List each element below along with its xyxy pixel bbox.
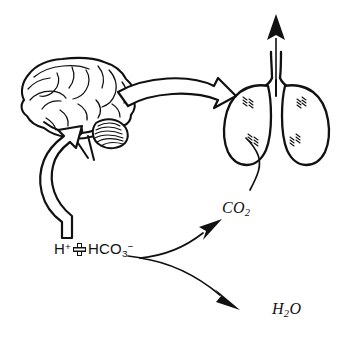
water-label: H2O xyxy=(272,301,301,320)
diagram-canvas xyxy=(0,0,344,347)
water-base: H xyxy=(272,300,284,317)
co2-base: CO xyxy=(222,199,245,216)
reaction-to-co2-arrow xyxy=(140,219,222,258)
water-suffix: O xyxy=(289,300,301,317)
bicarbonate-charge: − xyxy=(128,241,134,252)
lungs xyxy=(224,14,329,165)
co2-subscript: 2 xyxy=(245,207,251,218)
exhalation-arrow xyxy=(267,14,285,40)
proton-charge: + xyxy=(65,241,71,252)
cross-plus-icon xyxy=(74,244,85,255)
brain xyxy=(22,58,135,160)
proton-symbol: H xyxy=(54,240,65,257)
reaction-to-water-arrow xyxy=(140,258,240,310)
stimulus-to-brain-arrow xyxy=(40,126,82,238)
bicarbonate-symbol: HCO xyxy=(88,240,122,257)
bicarbonate-buffer-equation: H+HCO3− xyxy=(54,241,134,259)
physiology-diagram: H+HCO3− CO2 H2O xyxy=(0,0,344,347)
carbon-dioxide-label: CO2 xyxy=(222,200,250,219)
